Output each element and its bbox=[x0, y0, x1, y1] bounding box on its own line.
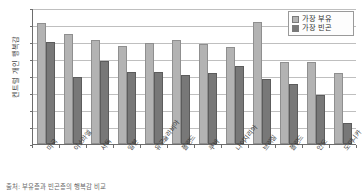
bar-rich bbox=[280, 62, 289, 144]
bar-group bbox=[87, 9, 114, 144]
legend: 가장 부유 가장 빈곤 bbox=[288, 11, 354, 36]
bar-poor bbox=[127, 72, 136, 144]
legend-swatch-rich-icon bbox=[292, 16, 299, 23]
bar-rich bbox=[226, 47, 235, 144]
bar-rich bbox=[37, 23, 46, 144]
bar-poor bbox=[235, 66, 244, 144]
bar-group bbox=[114, 9, 141, 144]
bar-poor bbox=[181, 75, 190, 144]
x-axis-tick-labels: 미국이스라엘서독일본유고슬라비아폴란드쿠바나이지리아브라질폴란드인도도미니카 bbox=[32, 148, 356, 184]
bar-poor bbox=[46, 42, 55, 144]
bar-group bbox=[33, 9, 60, 144]
legend-item-poor: 가장 빈곤 bbox=[292, 24, 350, 32]
x-axis-tick bbox=[356, 145, 357, 148]
chart-caption: 출처: 부유층과 빈곤층의 행복감 비교 bbox=[6, 183, 360, 191]
bar-poor bbox=[154, 72, 163, 144]
legend-label-rich: 가장 부유 bbox=[302, 15, 332, 23]
legend-label-poor: 가장 빈곤 bbox=[302, 24, 332, 32]
bar-group bbox=[141, 9, 168, 144]
bar-group bbox=[195, 9, 222, 144]
bar-rich bbox=[91, 40, 100, 144]
bar-poor bbox=[100, 61, 109, 144]
bar-poor bbox=[208, 73, 217, 144]
bar-rich bbox=[199, 44, 208, 144]
bar-rich bbox=[118, 46, 127, 144]
y-axis-title: 켄트럴 개인 행복감 bbox=[10, 2, 20, 132]
bar-rich bbox=[334, 73, 343, 144]
bar-poor bbox=[316, 95, 325, 144]
bar-rich bbox=[64, 34, 73, 144]
legend-item-rich: 가장 부유 bbox=[292, 15, 350, 23]
bar-group bbox=[60, 9, 87, 144]
bar-poor bbox=[262, 79, 271, 144]
bar-rich bbox=[145, 43, 154, 144]
legend-swatch-poor-icon bbox=[292, 25, 299, 32]
bar-rich bbox=[307, 62, 316, 144]
bar-group bbox=[221, 9, 248, 144]
